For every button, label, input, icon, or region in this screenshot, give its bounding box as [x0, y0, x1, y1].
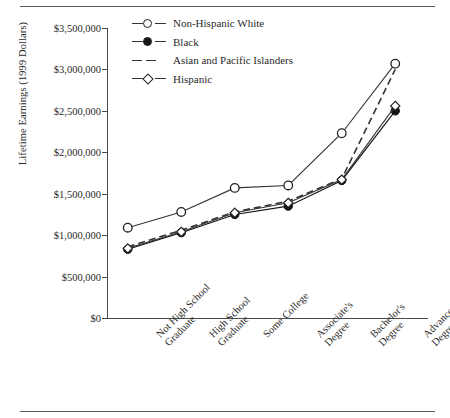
legend-marker-open-circle-icon — [132, 17, 166, 29]
series-hispanic — [123, 101, 400, 253]
series-black — [124, 107, 400, 254]
data-point — [391, 59, 400, 68]
chart-legend: Non-Hispanic WhiteBlackAsian and Pacific… — [132, 14, 293, 88]
series-asian-and-pacific-islanders — [128, 69, 396, 246]
legend-label: Hispanic — [173, 73, 212, 85]
legend-label: Non-Hispanic White — [173, 17, 264, 29]
legend-marker-filled-circle-icon — [132, 36, 166, 48]
lifetime-earnings-line-chart: Lifetime Earnings (1999 Dollars) $3,500,… — [0, 0, 450, 418]
data-point — [337, 129, 346, 138]
series-line — [128, 106, 396, 249]
data-point — [177, 208, 186, 217]
series-line — [128, 64, 396, 228]
legend-item: Black — [132, 33, 293, 52]
legend-label: Asian and Pacific Islanders — [173, 54, 293, 66]
data-point — [230, 184, 239, 193]
legend-label: Black — [173, 36, 199, 48]
series-line — [128, 111, 396, 249]
data-point — [284, 181, 293, 190]
legend-marker-open-diamond-icon — [132, 73, 166, 85]
legend-item: Hispanic — [132, 70, 293, 89]
legend-item: Non-Hispanic White — [132, 14, 293, 33]
legend-marker-none-icon — [132, 54, 166, 66]
series-line — [128, 69, 396, 246]
data-point — [123, 223, 132, 232]
legend-item: Asian and Pacific Islanders — [132, 51, 293, 70]
